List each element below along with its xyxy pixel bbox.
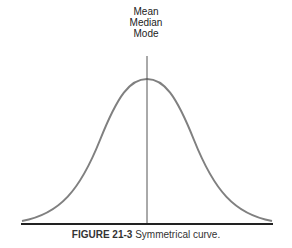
caption-text: Symmetrical curve. — [135, 229, 220, 240]
figure-caption: FIGURE 21-3 Symmetrical curve. — [0, 229, 292, 240]
bell-curve-diagram — [0, 0, 292, 248]
figure-number: FIGURE 21-3 — [72, 229, 133, 240]
